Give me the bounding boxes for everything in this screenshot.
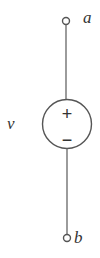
- minus-sign: −: [62, 130, 73, 150]
- voltage-source-diagram: + − a b v: [0, 0, 100, 258]
- terminal-b-node: [64, 235, 71, 242]
- source-voltage-label: v: [7, 114, 15, 133]
- terminal-a-label: a: [83, 8, 92, 27]
- terminal-a-node: [63, 18, 70, 25]
- terminal-b-label: b: [74, 228, 83, 247]
- plus-sign: +: [62, 104, 73, 124]
